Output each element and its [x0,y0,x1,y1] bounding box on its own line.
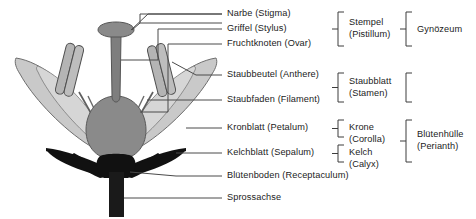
group-label-stamen-line1: Staubblatt [349,76,391,86]
label-shoot-axis: Sprossachse [227,192,281,203]
leader-stigma-main [131,14,222,30]
group-label-stamen-line2: (Stamen) [349,88,391,100]
label-receptacle: Blütenboden (Receptaculum) [227,170,349,181]
group-label-gynoecium: Gynözeum [417,24,462,35]
style [111,36,121,102]
group-label-perianth-line2: (Perianth) [417,141,464,153]
group-label-perianth-line1: Blütenhülle [417,129,464,139]
group-label-corolla-line2: (Corolla) [349,134,385,146]
flower-illustration [15,22,217,217]
bracket-stamen [332,73,344,102]
label-style: Griffel (Stylus) [227,23,287,34]
bracket-gynoecium [400,12,412,46]
group-brackets-level-2 [400,12,412,162]
group-label-calyx-line1: Kelch [349,147,372,157]
bracket-stamen-outer [406,73,412,102]
bracket-corolla [332,120,344,137]
ovary [86,96,146,160]
shoot-axis-stem [109,172,124,217]
label-petal: Kronblatt (Petalum) [227,122,308,133]
label-filament: Staubfaden (Filament) [227,94,320,105]
stigma [98,22,134,37]
group-label-stamen: Staubblatt (Stamen) [349,76,391,99]
bracket-perianth [400,120,412,162]
group-label-calyx-line2: (Calyx) [349,159,379,171]
leader-line-receptacle [130,172,222,176]
group-label-corolla-line1: Krone [349,122,374,132]
group-brackets-level-1 [332,12,344,162]
group-label-corolla: Krone (Corolla) [349,122,385,145]
group-label-calyx: Kelch (Calyx) [349,147,379,170]
pistil-group [86,22,146,160]
label-stigma: Narbe (Stigma) [227,8,291,19]
label-anther: Staubbeutel (Anthere) [227,69,319,80]
label-ovary: Fruchtknoten (Ovar) [227,38,311,49]
flower-anatomy-diagram: Narbe (Stigma) Griffel (Stylus) Fruchtkn… [0,0,476,219]
label-sepal: Kelchblatt (Sepalum) [227,147,314,158]
bracket-calyx [332,145,344,162]
group-label-pistil: Stempel (Pistillum) [349,17,390,40]
bracket-pistil [332,12,344,46]
group-label-perianth: Blütenhülle (Perianth) [417,129,464,152]
group-label-pistil-line1: Stempel [349,17,383,27]
group-label-pistil-line2: (Pistillum) [349,29,390,41]
